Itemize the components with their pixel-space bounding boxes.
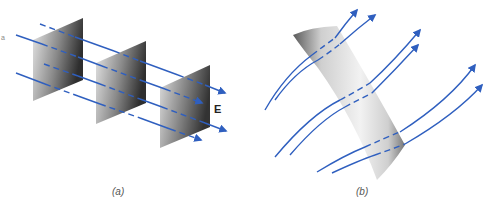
curved-surface: [293, 26, 405, 180]
electric-flux-figure: a E (a) (b): [0, 0, 501, 205]
figure-canvas: [0, 0, 501, 205]
field-label-e: E: [214, 103, 221, 115]
caption-a: (a): [112, 186, 124, 197]
panel-a: [16, 18, 226, 148]
edge-mark-label: a: [1, 34, 5, 41]
caption-b: (b): [356, 186, 368, 197]
plate-3: [160, 65, 210, 148]
panel-b: [265, 10, 482, 180]
